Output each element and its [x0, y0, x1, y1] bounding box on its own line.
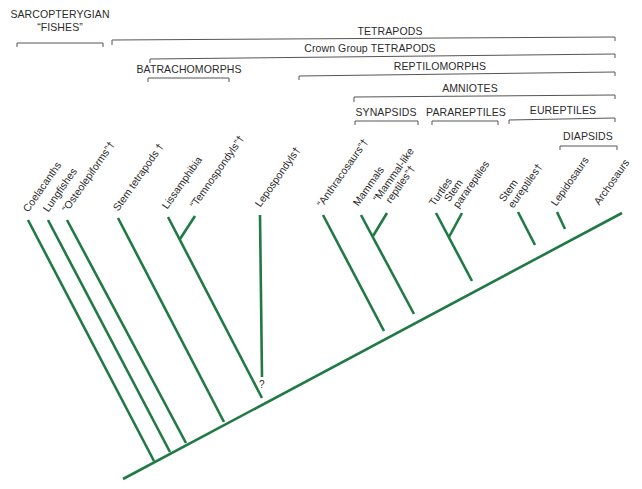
bracket-synapsids — [355, 121, 418, 125]
bracket-parareptiles — [432, 121, 498, 125]
bracket-reptilomorphs — [299, 72, 615, 80]
bracket-eureptiles — [509, 118, 615, 124]
branch-turtles — [436, 213, 472, 281]
branch-mammals — [361, 215, 414, 314]
group-label-reptilomorphs: REPTILOMORPHS — [370, 61, 510, 72]
bracket-batrachomorphs — [148, 78, 229, 82]
branch-coelacanths — [28, 220, 154, 461]
group-label-parareptiles: PARAREPTILES — [422, 107, 510, 118]
group-label-tetrapods: TETRAPODS — [310, 26, 470, 37]
cladogram-lines — [0, 0, 642, 489]
branch-stem-eureptiles — [518, 212, 535, 245]
branch-lepospondyls — [260, 215, 262, 377]
group-label-line: “FISHES” — [2, 22, 118, 33]
main-stem — [123, 213, 622, 479]
bracket-sarcopterygian — [17, 43, 103, 47]
branch-lungfishes — [48, 220, 170, 452]
group-label-amniotes: AMNIOTES — [420, 83, 520, 94]
branch-lissamphibia — [168, 217, 262, 398]
uncertain-placement-marker: ? — [259, 380, 265, 390]
bracket-diapsids — [560, 146, 617, 150]
branch-mammal-like-reptiles — [373, 213, 387, 236]
group-label-synapsids: SYNAPSIDS — [346, 107, 426, 118]
branch-lepidosaurs — [557, 212, 565, 229]
group-label-crown-group: Crown Group TETRAPODS — [270, 43, 470, 54]
branch-stem-parareptiles — [449, 213, 462, 237]
group-label-sarcopterygian: SARCOPTERYGIAN “FISHES” — [2, 9, 118, 32]
bracket-amniotes — [354, 95, 615, 102]
branch-stem-tetrapods — [118, 218, 224, 422]
cladogram: SARCOPTERYGIAN “FISHES” TETRAPODS Crown … — [0, 0, 642, 489]
branch-temnospondyls — [180, 216, 195, 239]
group-label-eureptiles: EUREPTILES — [518, 105, 608, 116]
group-label-diapsids: DIAPSIDS — [556, 131, 620, 142]
group-label-line: SARCOPTERYGIAN — [2, 9, 118, 20]
group-label-batrachomorphs: BATRACHOMORPHS — [134, 64, 244, 75]
